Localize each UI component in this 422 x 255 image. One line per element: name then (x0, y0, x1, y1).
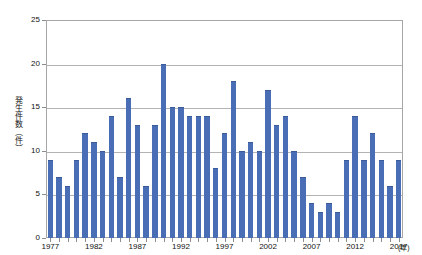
x-axis-tick-mark (373, 238, 374, 242)
x-axis-tick-mark (111, 238, 112, 242)
y-axis-tick-label: 15 (14, 103, 40, 111)
x-axis-tick-label: 1987 (129, 242, 147, 251)
x-axis-unit-label: (年) (398, 244, 410, 252)
gridline (47, 65, 402, 66)
gridline (47, 195, 402, 196)
x-axis-tick-mark (120, 238, 121, 242)
x-axis-tick-mark (251, 238, 252, 242)
x-axis-tick-mark (198, 238, 199, 242)
y-axis-tick-label: 20 (14, 60, 40, 68)
y-axis-tick-label: 10 (14, 147, 40, 155)
x-axis-tick-mark (76, 238, 77, 242)
x-axis-tick-mark (68, 238, 69, 242)
x-axis-tick-label: 1982 (85, 242, 103, 251)
y-axis-tick-mark (42, 238, 46, 239)
y-axis-tick-label: 0 (14, 234, 40, 242)
x-axis-tick-mark (207, 238, 208, 242)
x-axis-tick-mark (294, 238, 295, 242)
x-axis-tick-mark (164, 238, 165, 242)
x-axis-tick-label: 1977 (41, 242, 59, 251)
plot-area (46, 20, 403, 238)
x-axis-tick-label: 2007 (303, 242, 321, 251)
bar-chart: 発生件数（件） 0510152025 197719821987199219972… (0, 0, 422, 255)
gridline (47, 108, 402, 109)
x-axis-tick-mark (242, 238, 243, 242)
y-axis-tick-label: 25 (14, 16, 40, 24)
x-axis-tick-mark (285, 238, 286, 242)
x-axis-tick-mark (338, 238, 339, 242)
y-axis-tick-label: 5 (14, 190, 40, 198)
x-axis-tick-mark (329, 238, 330, 242)
x-axis-tick-label: 2002 (259, 242, 277, 251)
x-axis-tick-mark (155, 238, 156, 242)
x-axis-tick-label: 1992 (172, 242, 190, 251)
gridline (47, 152, 402, 153)
x-axis-tick-label: 1997 (216, 242, 234, 251)
x-axis-tick-mark (381, 238, 382, 242)
x-axis-tick-label: 2012 (346, 242, 364, 251)
